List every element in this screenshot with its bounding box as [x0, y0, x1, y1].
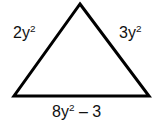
right-side-variable: y	[128, 24, 136, 41]
bottom-side-minus-sign: –	[79, 103, 88, 120]
triangle-figure: 2y2 3y2 8y2 – 3	[0, 0, 159, 127]
bottom-side-constant: 3	[92, 103, 101, 120]
bottom-side-label: 8y2 – 3	[52, 104, 101, 120]
right-side-label: 3y2	[119, 25, 141, 41]
left-side-coefficient: 2	[13, 24, 22, 41]
right-side-coefficient: 3	[119, 24, 128, 41]
triangle-outline	[14, 4, 149, 96]
right-side-exponent: 2	[136, 23, 142, 34]
left-side-label: 2y2	[13, 25, 35, 41]
left-side-exponent: 2	[30, 23, 36, 34]
bottom-side-coefficient: 8	[52, 103, 61, 120]
bottom-side-variable: y	[61, 103, 69, 120]
left-side-variable: y	[22, 24, 30, 41]
